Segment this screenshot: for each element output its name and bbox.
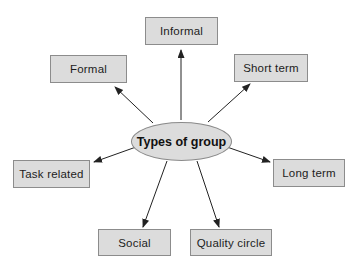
node-label: Short term: [243, 62, 299, 74]
node-social: Social: [98, 229, 171, 256]
node-quality-circle: Quality circle: [190, 229, 272, 256]
node-formal: Formal: [50, 55, 127, 83]
node-label: Task related: [19, 168, 83, 180]
node-long-term: Long term: [273, 159, 345, 187]
center-node-types-of-group: Types of group: [131, 122, 232, 161]
node-label: Quality circle: [197, 237, 266, 249]
node-informal: Informal: [145, 17, 218, 45]
arrow-to-task-related: [94, 147, 136, 162]
node-label: Informal: [160, 25, 203, 37]
arrow-to-long-term: [227, 147, 270, 162]
node-short-term: Short term: [234, 54, 308, 82]
node-task-related: Task related: [13, 160, 90, 188]
node-label: Formal: [70, 63, 107, 75]
arrow-to-quality-circle: [197, 161, 219, 227]
diagram-canvas: Types of group Informal Formal Short ter…: [0, 0, 363, 267]
node-label: Long term: [282, 167, 336, 179]
arrow-to-social: [143, 161, 167, 227]
arrow-to-short-term: [208, 84, 250, 122]
node-label: Social: [118, 237, 151, 249]
center-node-label: Types of group: [137, 135, 226, 149]
arrow-to-formal: [115, 87, 153, 123]
